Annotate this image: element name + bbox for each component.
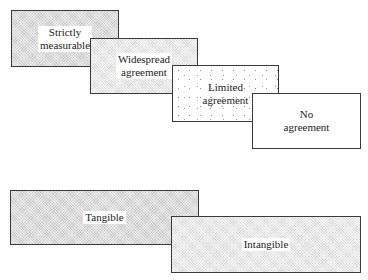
box-no-agreement: No agreement (252, 93, 361, 149)
box-label: Limited agreement (201, 81, 251, 107)
box-label: Intangible (242, 238, 291, 251)
box-label: Tangible (83, 211, 125, 224)
box-intangible: Intangible (171, 216, 361, 273)
box-label: Strictly measurable (38, 26, 92, 52)
box-label: No agreement (282, 108, 332, 134)
box-label: Widespread agreement (116, 53, 172, 79)
